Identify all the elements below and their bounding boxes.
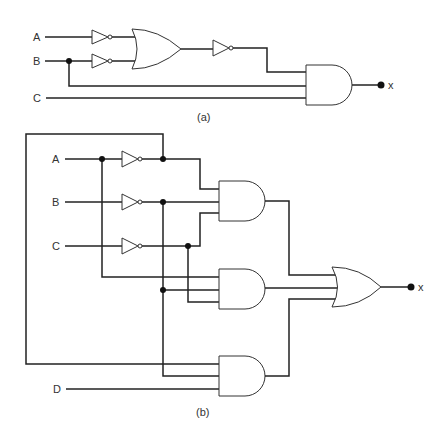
- junction-dot: [185, 243, 191, 249]
- and-gate-icon: [219, 269, 265, 309]
- wire-b-branch: [69, 61, 306, 86]
- input-label-a: A: [33, 31, 41, 43]
- circuit-b: A B C D: [26, 134, 424, 418]
- or-gate-icon: [132, 29, 181, 69]
- not-gate-icon: [92, 54, 112, 68]
- circuit-a: A B C x (a): [33, 29, 394, 123]
- wire: [265, 201, 336, 275]
- and-gate-icon: [306, 65, 352, 105]
- input-label-c: C: [52, 240, 60, 252]
- not-gate-icon: [122, 194, 142, 210]
- not-gate-icon: [122, 151, 142, 167]
- caption-b: (b): [196, 406, 209, 418]
- output-dot: [408, 284, 415, 291]
- and-gate-icon: [219, 356, 265, 396]
- and-gate-icon: [219, 181, 265, 221]
- not-gate-icon: [122, 238, 142, 254]
- input-label-d: D: [53, 383, 61, 395]
- logic-circuit-figure: A B C x (a) A B C D: [0, 0, 445, 442]
- junction-dot: [160, 199, 166, 205]
- wire: [265, 299, 336, 376]
- not-gate-icon: [92, 30, 112, 44]
- junction-dot: [160, 287, 166, 293]
- input-label-a: A: [52, 153, 60, 165]
- output-label: x: [418, 281, 424, 293]
- wire: [163, 202, 219, 376]
- junction-dot: [160, 156, 166, 162]
- input-label-b: B: [52, 196, 59, 208]
- circuit-svg: A B C x (a) A B C D: [0, 0, 445, 442]
- input-label-c: C: [33, 92, 41, 104]
- output-dot: [378, 82, 385, 89]
- wire: [233, 48, 306, 72]
- caption-a: (a): [197, 111, 210, 123]
- or-gate-icon: [332, 267, 381, 307]
- input-label-b: B: [33, 55, 40, 67]
- not-gate-icon: [213, 40, 233, 56]
- output-label: x: [388, 79, 394, 91]
- junction-dot: [66, 58, 72, 64]
- wire: [102, 159, 219, 277]
- wire: [142, 159, 219, 189]
- wire: [142, 213, 219, 246]
- wire: [188, 246, 219, 302]
- junction-dot: [99, 156, 105, 162]
